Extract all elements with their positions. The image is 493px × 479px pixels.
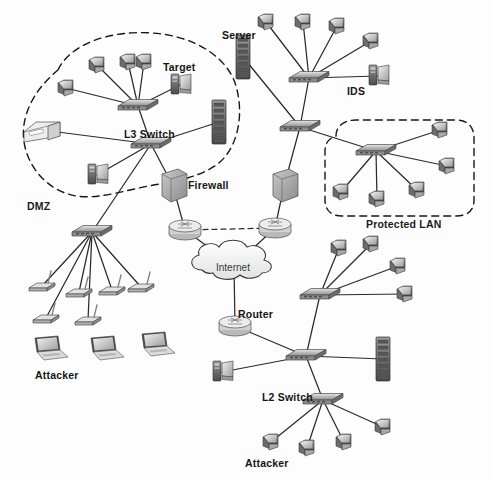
workstation-icon[interactable] (295, 14, 310, 30)
workstation-icon[interactable] (333, 184, 348, 200)
label-attacker-lan: Attacker (245, 457, 289, 469)
access-point-icon[interactable] (33, 303, 59, 323)
workstation-icon[interactable] (363, 33, 378, 49)
workstation-icon[interactable] (120, 54, 135, 70)
workstation-icon[interactable] (299, 440, 314, 456)
workstation-icon[interactable] (89, 57, 104, 73)
router-icon[interactable] (259, 218, 291, 238)
label-internet: Internet (216, 262, 250, 273)
switch-icon[interactable] (280, 121, 320, 132)
label-l2-switch: L2 Switch (262, 391, 313, 403)
workstation-icon[interactable] (331, 240, 346, 256)
router-icon[interactable] (169, 220, 201, 240)
label-router: Router (238, 308, 273, 320)
network-link (92, 232, 112, 290)
label-ids: IDS (347, 85, 365, 97)
label-target: Target (163, 61, 196, 73)
tower-pc-icon[interactable] (171, 74, 191, 94)
tower-pc-icon[interactable] (369, 65, 389, 85)
workstation-icon[interactable] (439, 158, 454, 174)
printer-icon[interactable] (24, 122, 60, 142)
workstation-icon[interactable] (390, 258, 405, 274)
label-firewall: Firewall (188, 179, 229, 191)
access-point-icon[interactable] (99, 275, 125, 295)
network-link (92, 232, 141, 287)
device-layer (24, 14, 454, 456)
workstation-icon[interactable] (263, 434, 278, 450)
switch-icon[interactable] (289, 72, 329, 83)
laptop-icon[interactable] (142, 332, 175, 356)
workstation-icon[interactable] (329, 18, 344, 34)
network-link (243, 57, 300, 127)
laptop-icon[interactable] (91, 336, 124, 360)
workstation-icon[interactable] (58, 80, 73, 96)
workstation-icon[interactable] (375, 419, 390, 435)
access-point-icon[interactable] (66, 277, 92, 297)
label-l3-switch: L3 Switch (124, 128, 175, 140)
cloud-icon[interactable] (192, 240, 272, 279)
switch-icon[interactable] (286, 350, 326, 361)
workstation-icon[interactable] (409, 182, 424, 198)
workstation-icon[interactable] (336, 434, 351, 450)
switch-icon[interactable] (300, 289, 340, 300)
network-link (266, 22, 309, 78)
access-point-icon[interactable] (128, 272, 154, 292)
firewall-icon[interactable] (162, 169, 187, 202)
network-link (320, 248, 339, 295)
network-link (303, 22, 309, 78)
tower-pc-icon[interactable] (213, 361, 233, 381)
workstation-icon[interactable] (397, 286, 412, 302)
label-server: Server (222, 29, 256, 41)
network-diagram: TargetServerIDSL3 SwitchFirewallInternet… (0, 0, 493, 479)
workstation-icon[interactable] (432, 122, 447, 138)
laptop-icon[interactable] (35, 336, 68, 360)
rack-icon[interactable] (376, 337, 390, 381)
zone-label-dmz: DMZ (27, 200, 50, 212)
network-link (300, 78, 309, 127)
firewall-icon[interactable] (273, 169, 298, 202)
access-point-icon[interactable] (29, 271, 55, 291)
diagram-canvas (0, 0, 493, 479)
switch-icon[interactable] (72, 226, 112, 237)
label-attacker-wireless: Attacker (35, 369, 79, 381)
workstation-icon[interactable] (258, 14, 273, 30)
switch-icon[interactable] (118, 100, 158, 111)
rack-icon[interactable] (236, 35, 250, 79)
zone-label-protected-lan: Protected LAN (366, 218, 442, 230)
network-link (271, 400, 323, 442)
rack-icon[interactable] (212, 100, 226, 144)
workstation-icon[interactable] (136, 54, 151, 70)
workstation-icon[interactable] (369, 191, 384, 207)
network-link (306, 295, 320, 356)
tower-pc-icon[interactable] (88, 164, 108, 184)
